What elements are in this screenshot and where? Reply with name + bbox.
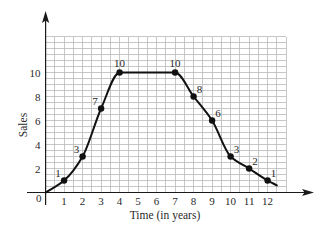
y-tick-label: 6 <box>35 115 41 127</box>
data-point-marker <box>116 69 122 75</box>
x-tick-label: 1 <box>61 195 67 207</box>
x-tick-label: 7 <box>172 195 178 207</box>
y-tick-label: 4 <box>35 139 41 151</box>
data-point-marker <box>227 153 233 159</box>
data-point-label: 6 <box>215 107 221 119</box>
sales-over-time-chart: 137101086321 123456789101112 246810 0 Ti… <box>0 0 327 228</box>
data-point-label: 10 <box>114 57 126 69</box>
y-tick-label: 2 <box>35 163 41 175</box>
y-tick-label: 8 <box>35 91 41 103</box>
x-tick-label: 4 <box>117 195 123 207</box>
data-point-marker <box>209 117 215 123</box>
data-point-marker <box>190 93 196 99</box>
x-tick-label: 12 <box>262 195 273 207</box>
origin-label: 0 <box>36 192 42 204</box>
x-tick-label: 2 <box>80 195 86 207</box>
x-tick-label: 9 <box>209 195 215 207</box>
data-point-label: 1 <box>55 167 61 179</box>
y-axis-label: Sales <box>17 112 29 137</box>
y-tick-labels: 246810 <box>30 67 42 175</box>
x-tick-label: 6 <box>154 195 160 207</box>
y-tick-label: 10 <box>30 67 42 79</box>
data-point-marker <box>172 69 178 75</box>
data-point-marker <box>264 177 270 183</box>
data-point-label: 7 <box>92 95 98 107</box>
data-point-label: 8 <box>197 83 203 95</box>
data-point-marker <box>79 153 85 159</box>
x-tick-label: 3 <box>98 195 104 207</box>
data-point-label: 10 <box>170 57 182 69</box>
data-point-marker <box>98 105 104 111</box>
x-tick-label: 5 <box>135 195 141 207</box>
x-axis-label: Time (in years) <box>130 209 201 222</box>
data-point-marker <box>246 165 252 171</box>
x-tick-label: 11 <box>244 195 255 207</box>
data-point-label: 3 <box>74 143 80 155</box>
data-point-label: 2 <box>252 155 258 167</box>
x-tick-labels: 123456789101112 <box>61 195 273 207</box>
data-point-marker <box>61 177 67 183</box>
data-point-label: 1 <box>271 167 277 179</box>
x-tick-label: 8 <box>191 195 197 207</box>
data-point-label: 3 <box>234 143 240 155</box>
x-tick-label: 10 <box>225 195 237 207</box>
